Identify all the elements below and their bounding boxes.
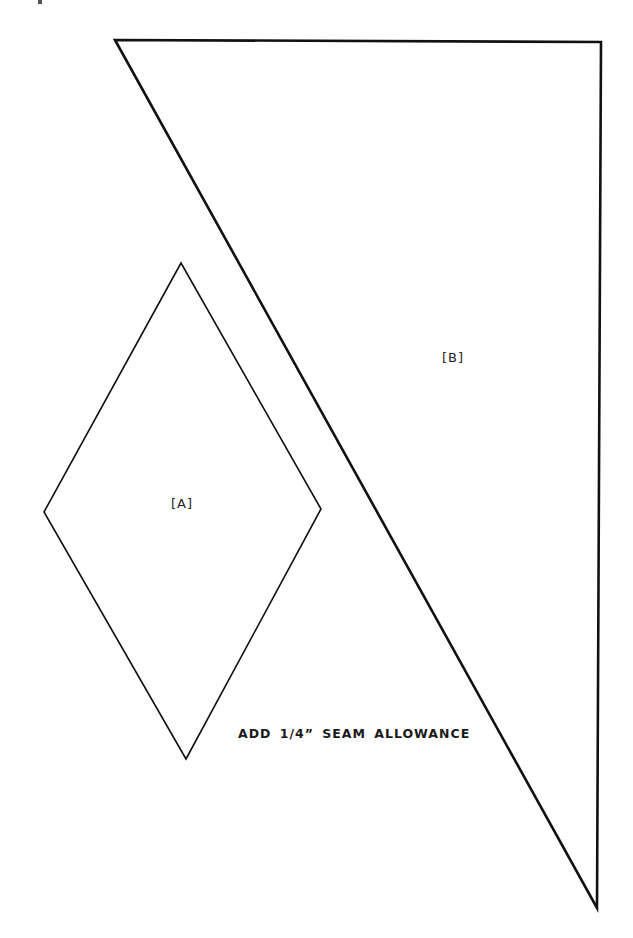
- piece-a-label: [A]: [171, 496, 193, 511]
- piece-b-triangle: [115, 40, 601, 908]
- pattern-drawing: [0, 0, 633, 938]
- seam-allowance-note: ADD 1/4” SEAM ALLOWANCE: [238, 726, 470, 741]
- piece-b-label: [B]: [442, 350, 464, 365]
